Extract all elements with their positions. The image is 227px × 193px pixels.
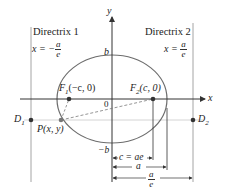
y-axis-label: y [107, 6, 111, 16]
point-d2 [191, 118, 196, 123]
focus-2-coords: (c, 0) [140, 82, 161, 93]
d2-sub: 2 [205, 119, 209, 127]
focus-2-label: F2(c, 0) [130, 83, 161, 96]
x-axis-label: x [208, 93, 212, 103]
directrix-2-title: Directrix 2 [145, 27, 191, 38]
d1-sub: 1 [21, 119, 25, 127]
directrix-1-eq-lhs: x = − [32, 43, 55, 54]
point-d2-label: D2 [198, 114, 209, 127]
dim-a-label: a [136, 162, 141, 172]
directrix-1-eq-den: e [55, 50, 61, 59]
directrix-2-eq-den: e [180, 50, 186, 59]
focus-1-coords: (−c, 0) [69, 82, 96, 93]
minus-b-intercept-label: −b [98, 146, 109, 156]
point-p-label: P(x, y) [37, 124, 64, 134]
focus-2-point [151, 97, 156, 102]
directrix-1-equation: x = −ae [32, 40, 61, 59]
dim-a-over-e-label: ae [148, 170, 155, 189]
p-to-f1-dashed [61, 99, 69, 120]
directrix-1-title: Directrix 1 [33, 27, 79, 38]
directrix-2-equation: x = ae [164, 40, 187, 59]
dim-ae-den: e [148, 180, 154, 189]
point-d1-label: D1 [14, 114, 25, 127]
focus-1-point [67, 97, 72, 102]
point-p [59, 118, 64, 123]
origin-label: 0 [104, 100, 109, 109]
directrix-2-eq-lhs: x = [164, 43, 180, 54]
focus-1-label: F1(−c, 0) [59, 83, 95, 96]
point-d1 [29, 118, 34, 123]
b-intercept-label: b [104, 47, 109, 57]
